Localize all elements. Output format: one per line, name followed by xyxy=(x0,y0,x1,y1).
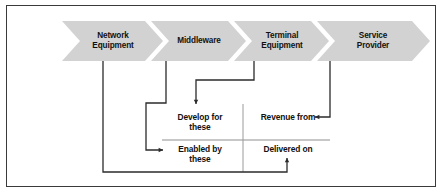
chevron-group xyxy=(62,21,430,61)
diagram-graphics xyxy=(0,0,444,195)
connector-service-provider-to-revenue-from xyxy=(315,61,330,117)
quadrant-label-delivered-on: Delivered on xyxy=(249,144,327,154)
chevron-network-equipment[interactable] xyxy=(62,21,163,61)
quadrant-label-enabled-by-these: Enabled by these xyxy=(163,144,237,164)
diagram-canvas: Network Equipment Middleware Terminal Eq… xyxy=(0,0,444,195)
chevron-service-provider[interactable] xyxy=(317,21,430,61)
quadrant-label-revenue-from: Revenue from xyxy=(249,112,327,122)
connector-middleware-to-enabled-by-these xyxy=(146,61,166,150)
connector-terminal-equipment-to-develop-for-these xyxy=(196,61,254,104)
chevron-terminal-equipment[interactable] xyxy=(234,21,329,61)
quadrant-label-develop-for-these: Develop for these xyxy=(163,112,237,132)
chevron-middleware[interactable] xyxy=(151,21,246,61)
